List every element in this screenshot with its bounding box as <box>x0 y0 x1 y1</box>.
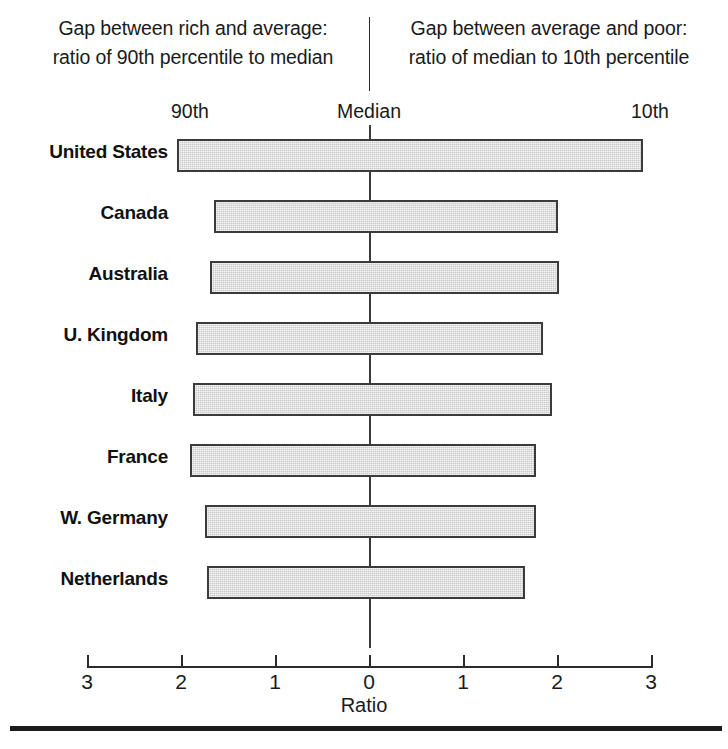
caption-right-line2: ratio of median to 10th percentile <box>382 43 716 72</box>
bar-row-label: Netherlands <box>0 568 168 590</box>
bar <box>210 261 559 294</box>
bar <box>190 444 536 477</box>
bar-row: United States <box>0 131 728 192</box>
x-axis-tick-label: 3 <box>67 670 107 694</box>
bar-row-label: W. Germany <box>0 507 168 529</box>
bar-row-label: Canada <box>0 202 168 224</box>
bar <box>196 322 543 355</box>
x-axis-tick <box>557 655 559 667</box>
bar-row: W. Germany <box>0 497 728 558</box>
bar-row: France <box>0 436 728 497</box>
bar <box>205 505 536 538</box>
x-axis-tick-label: 2 <box>537 670 577 694</box>
header-divider <box>369 17 370 91</box>
bar-row-label: U. Kingdom <box>0 324 168 346</box>
x-axis-tick <box>87 655 89 667</box>
x-axis-tick-label: 3 <box>631 670 671 694</box>
bottom-rule <box>10 726 722 731</box>
bar-row: Italy <box>0 375 728 436</box>
bar-row: Australia <box>0 253 728 314</box>
bar-row-label: Australia <box>0 263 168 285</box>
bar <box>214 200 558 233</box>
x-axis-tick-label: 1 <box>255 670 295 694</box>
x-axis-tick-label: 0 <box>349 670 389 694</box>
bar <box>193 383 552 416</box>
caption-left: Gap between rich and average: ratio of 9… <box>28 14 358 72</box>
x-axis-tick <box>275 655 277 667</box>
bar-row: Canada <box>0 192 728 253</box>
caption-right: Gap between average and poor: ratio of m… <box>382 14 716 72</box>
x-axis-title: Ratio <box>0 694 728 717</box>
caption-left-line1: Gap between rich and average: <box>28 14 358 43</box>
x-axis-tick-label: 2 <box>161 670 201 694</box>
x-axis-tick-label: 1 <box>443 670 483 694</box>
subheader-10th: 10th <box>610 100 690 122</box>
bar-row: U. Kingdom <box>0 314 728 375</box>
bar <box>177 139 642 172</box>
x-axis-tick <box>181 655 183 667</box>
caption-left-line2: ratio of 90th percentile to median <box>28 43 358 72</box>
bar-row-label: France <box>0 446 168 468</box>
bar <box>207 566 525 599</box>
bar-row: Netherlands <box>0 558 728 619</box>
bar-row-label: Italy <box>0 385 168 407</box>
income-ratio-chart: Gap between rich and average: ratio of 9… <box>0 0 728 749</box>
x-axis-tick <box>369 655 371 667</box>
x-axis-tick <box>463 655 465 667</box>
subheader-median: Median <box>329 100 409 122</box>
x-axis-tick <box>651 655 653 667</box>
caption-right-line1: Gap between average and poor: <box>382 14 716 43</box>
bar-row-label: United States <box>0 141 168 163</box>
subheader-90th: 90th <box>150 100 230 122</box>
plot-area: United StatesCanadaAustraliaU. KingdomIt… <box>0 125 728 645</box>
